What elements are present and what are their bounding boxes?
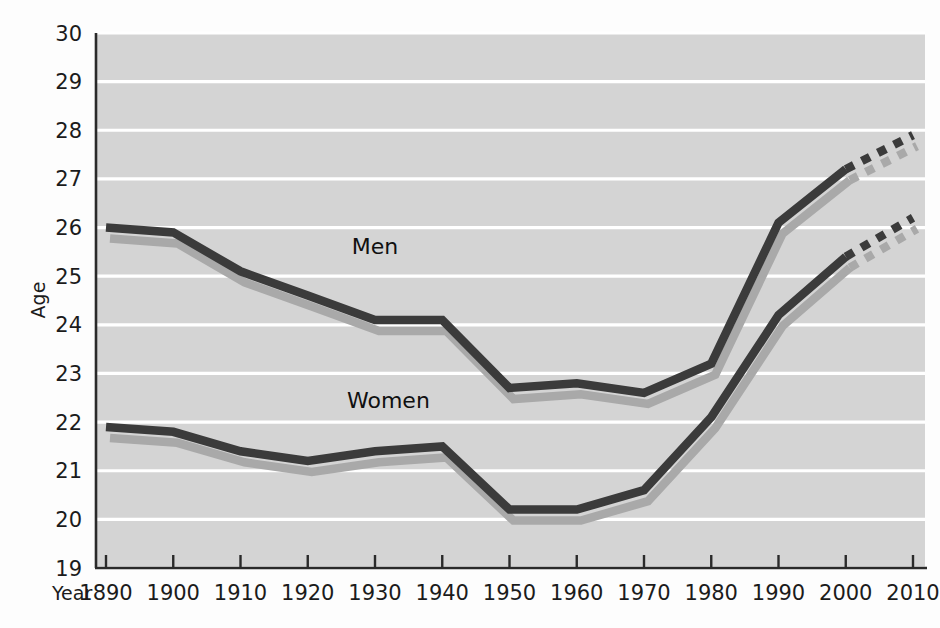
y-axis-tick-labels: 192021222324252627282930 bbox=[55, 22, 82, 581]
x-tick-label: 1920 bbox=[281, 581, 334, 605]
x-tick-label: 1980 bbox=[685, 581, 738, 605]
x-tick-label: 1910 bbox=[214, 581, 267, 605]
line-chart: 192021222324252627282930 189019001910192… bbox=[0, 0, 940, 628]
y-tick-label: 30 bbox=[55, 22, 82, 46]
y-tick-label: 29 bbox=[55, 70, 82, 94]
y-tick-label: 24 bbox=[55, 313, 82, 337]
y-tick-label: 25 bbox=[55, 265, 82, 289]
y-tick-label: 22 bbox=[55, 411, 82, 435]
x-axis-title: Year bbox=[51, 582, 92, 604]
x-tick-label: 1900 bbox=[147, 581, 200, 605]
y-tick-label: 23 bbox=[55, 362, 82, 386]
chart-figure: 192021222324252627282930 189019001910192… bbox=[0, 0, 940, 628]
x-tick-label: 2010 bbox=[886, 581, 939, 605]
y-tick-label: 28 bbox=[55, 119, 82, 143]
y-tick-label: 27 bbox=[55, 167, 82, 191]
y-axis-title: Age bbox=[27, 282, 49, 319]
x-tick-label: 1940 bbox=[416, 581, 469, 605]
x-tick-label: 2000 bbox=[819, 581, 872, 605]
x-tick-label: 1930 bbox=[348, 581, 401, 605]
x-axis-tick-labels: 1890190019101920193019401950196019701980… bbox=[79, 581, 939, 605]
y-tick-label: 19 bbox=[55, 557, 82, 581]
x-tick-label: 1950 bbox=[483, 581, 536, 605]
series-label-men: Men bbox=[352, 234, 398, 259]
series-label-women: Women bbox=[347, 388, 430, 413]
x-tick-label: 1960 bbox=[550, 581, 603, 605]
y-tick-label: 21 bbox=[55, 459, 82, 483]
y-tick-label: 20 bbox=[55, 508, 82, 532]
x-tick-label: 1970 bbox=[617, 581, 670, 605]
x-tick-label: 1990 bbox=[752, 581, 805, 605]
y-tick-label: 26 bbox=[55, 216, 82, 240]
